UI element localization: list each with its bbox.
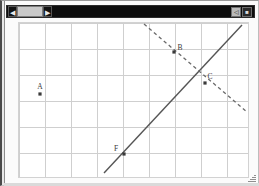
- grip-line: [254, 175, 256, 176]
- grid: [19, 23, 249, 178]
- minimize-icon[interactable]: ◁: [231, 7, 241, 17]
- point-f-label: F: [114, 144, 118, 153]
- point-a-marker[interactable]: [38, 92, 41, 95]
- close-icon[interactable]: ■: [242, 7, 252, 17]
- app-window: ◀ ▶ ◁ ■ ABCF: [0, 0, 259, 186]
- point-b-label: B: [177, 43, 182, 52]
- scroll-left-arrow-icon[interactable]: ◀: [8, 6, 17, 17]
- point-c-marker[interactable]: [203, 81, 206, 84]
- point-c-label: C: [207, 72, 212, 81]
- scrollbar-thumb[interactable]: [17, 6, 43, 17]
- scroll-right-arrow-icon[interactable]: ▶: [43, 6, 52, 17]
- point-b-marker[interactable]: [172, 50, 175, 53]
- grip-line: [250, 179, 256, 180]
- window-controls: ◁ ■: [231, 7, 252, 17]
- point-a-label: A: [37, 82, 43, 91]
- canvas-svg[interactable]: ABCF: [19, 23, 249, 178]
- titlebar[interactable]: ◀ ▶ ◁ ■: [6, 5, 255, 18]
- point-f-marker[interactable]: [122, 152, 125, 155]
- line-solid-ascending[interactable]: [104, 25, 242, 173]
- geometry-canvas[interactable]: ABCF: [18, 22, 249, 178]
- grip-line: [252, 177, 256, 178]
- resize-grip[interactable]: [247, 174, 256, 183]
- window-bottom-edge: [4, 183, 259, 186]
- grip-line: [248, 181, 256, 182]
